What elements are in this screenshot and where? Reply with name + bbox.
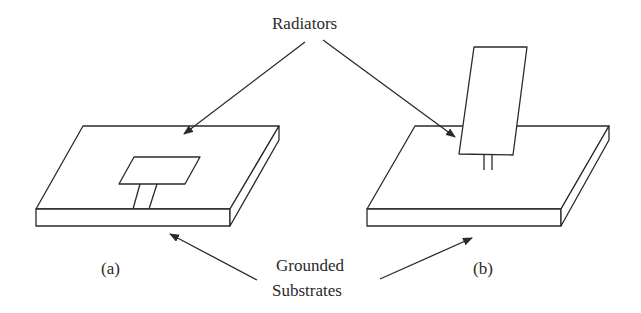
grounded-label-line1: Grounded xyxy=(276,256,344,276)
substrate-arrow-a xyxy=(170,234,257,280)
patch-radiator xyxy=(119,157,200,184)
radiators-label: Radiators xyxy=(272,14,337,34)
substrate-b-front-face xyxy=(367,209,561,226)
antenna-diagram: Radiators Grounded Substrates (a) (b) xyxy=(0,0,641,313)
grounded-label-line2: Substrates xyxy=(272,281,342,301)
substrate-arrow-b xyxy=(380,238,472,279)
figure-a-label: (a) xyxy=(101,259,120,279)
radiator-arrow-a xyxy=(184,42,305,134)
radiator-arrow-b xyxy=(323,40,455,137)
substrate-b xyxy=(367,47,609,226)
substrate-a-front-face xyxy=(36,209,230,226)
substrate-a xyxy=(36,126,279,226)
figure-b-label: (b) xyxy=(473,259,493,279)
